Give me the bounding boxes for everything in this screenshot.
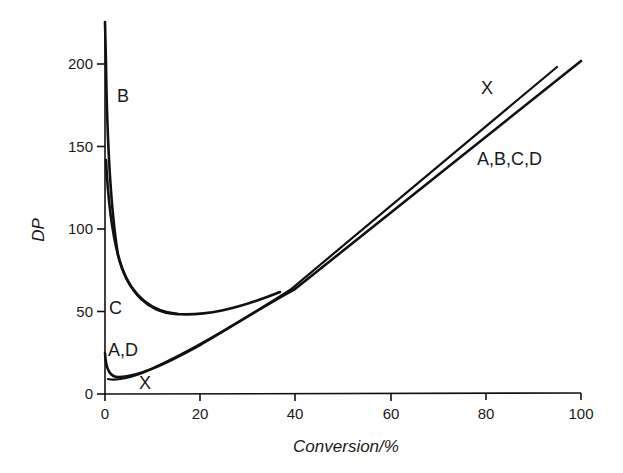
curve-labels: B C A,D X X A,B,C,D (108, 78, 542, 393)
y-tick-150: 150 (68, 138, 93, 155)
x-axis-title: Conversion/% (293, 437, 399, 456)
y-tick-100: 100 (68, 220, 93, 237)
x-tick-40: 40 (287, 405, 304, 422)
x-tick-20: 20 (192, 405, 209, 422)
curve-c (106, 160, 178, 314)
label-abcd: A,B,C,D (477, 149, 542, 169)
curve-x (108, 67, 557, 380)
curves (105, 22, 581, 380)
y-tick-200: 200 (68, 55, 93, 72)
chart: 0 50 100 150 200 DP 0 20 40 60 80 100 Co… (0, 0, 623, 473)
y-axis-title: DP (29, 218, 48, 242)
label-ad: A,D (108, 340, 138, 360)
x-tick-100: 100 (568, 405, 593, 422)
x-tick-60: 60 (383, 405, 400, 422)
x-axis: 0 20 40 60 80 100 Conversion/% (101, 393, 594, 456)
curve-ad (105, 61, 581, 377)
y-axis: 0 50 100 150 200 DP (29, 22, 105, 402)
y-tick-0: 0 (85, 385, 93, 402)
x-tick-80: 80 (478, 405, 495, 422)
x-tick-0: 0 (101, 405, 109, 422)
label-x-low: X (139, 373, 151, 393)
label-b: B (117, 86, 129, 106)
label-c: C (109, 298, 122, 318)
label-x-high: X (481, 78, 493, 98)
y-tick-50: 50 (76, 303, 93, 320)
curve-b (105, 22, 280, 314)
